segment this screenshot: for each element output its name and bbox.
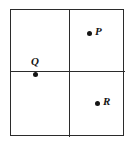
outer-square-frame: P Q R [10,9,124,136]
point-label-r: R [103,96,110,107]
figure-root: P Q R [0,0,135,144]
horizontal-divider [11,71,125,72]
point-marker-q [33,72,38,77]
point-label-p: P [95,26,102,37]
point-marker-p [87,31,92,36]
point-label-q: Q [31,56,39,67]
vertical-divider [69,10,70,137]
point-marker-r [95,101,100,106]
